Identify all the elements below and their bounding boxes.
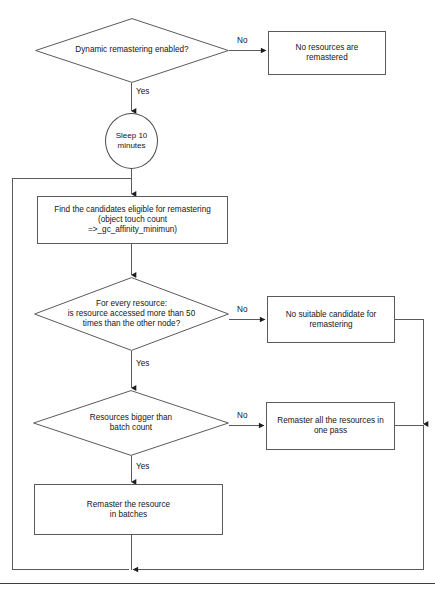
decision-every-resource-label: For every resource: is resource accessed… (68, 299, 195, 330)
decision-every-resource[interactable]: For every resource: is resource accessed… (34, 277, 229, 351)
terminal-no-suitable-candidate-label: No suitable candidate for remastering (282, 310, 381, 330)
decision-dynamic-remastering-label: Dynamic remastering enabled? (75, 45, 188, 55)
edge-no-candidate-to-right-rail (395, 320, 424, 425)
terminal-no-suitable-candidate[interactable]: No suitable candidate for remastering (267, 296, 395, 343)
process-remaster-one-pass[interactable]: Remaster all the resources in one pass (266, 402, 395, 450)
process-sleep-label: Sleep 10 minutes (112, 131, 152, 151)
terminal-no-resources-remastered[interactable]: No resources are remastered (268, 31, 386, 75)
edge-label-batch-yes: Yes (136, 462, 149, 471)
terminal-no-resources-remastered-label: No resources are remastered (292, 43, 363, 63)
edge-label-dynamic-no: No (237, 36, 247, 45)
decision-dynamic-remastering[interactable]: Dynamic remastering enabled? (35, 18, 229, 83)
edge-label-dynamic-yes: Yes (136, 87, 149, 96)
process-find-candidates[interactable]: Find the candidates eligible for remaste… (37, 196, 228, 244)
page-bottom-rule (0, 583, 435, 584)
decision-batch-count-label: Resources bigger than batch count (90, 413, 172, 434)
decision-batch-count[interactable]: Resources bigger than batch count (33, 390, 229, 456)
process-find-candidates-label: Find the candidates eligible for remaste… (50, 205, 215, 235)
process-remaster-batches-label: Remaster the resource in batches (83, 500, 174, 520)
flowchart-canvas: Dynamic remastering enabled? No resource… (0, 0, 435, 590)
process-remaster-batches[interactable]: Remaster the resource in batches (34, 484, 223, 535)
process-remaster-one-pass-label: Remaster all the resources in one pass (273, 416, 387, 436)
edge-label-batch-no: No (237, 411, 247, 420)
edge-label-resource-yes: Yes (136, 359, 149, 368)
edge-label-resource-no: No (237, 305, 247, 314)
process-sleep[interactable]: Sleep 10 minutes (105, 113, 158, 169)
